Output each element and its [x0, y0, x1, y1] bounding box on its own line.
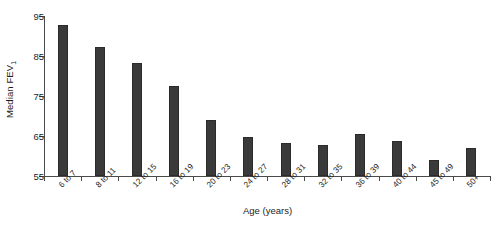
bar: [206, 120, 216, 176]
bar: [281, 143, 291, 176]
x-axis-tick: [453, 176, 454, 181]
x-axis-tick: [341, 176, 342, 181]
y-axis-tick-label: 65: [10, 131, 44, 142]
plot-area: [44, 16, 490, 176]
bar: [243, 137, 253, 176]
x-axis-tick: [44, 176, 45, 181]
bar: [392, 141, 402, 176]
y-axis-tick-label: 75: [10, 91, 44, 102]
x-axis-tick: [81, 176, 82, 181]
y-axis-ticks: 5565758595: [0, 0, 44, 234]
bar-chart: Median FEV1 5565758595 Age (years) 6 to …: [0, 0, 501, 234]
x-axis-tick: [267, 176, 268, 181]
bar: [466, 148, 476, 176]
x-axis-title: Age (years): [243, 205, 292, 216]
bar: [169, 86, 179, 176]
bar: [58, 25, 68, 176]
bar: [132, 63, 142, 176]
y-axis-tick-label: 95: [10, 11, 44, 22]
x-axis-tick: [156, 176, 157, 181]
x-axis-tick: [118, 176, 119, 181]
bar: [355, 134, 365, 176]
x-axis-tick: [304, 176, 305, 181]
x-axis-tick: [230, 176, 231, 181]
bar: [95, 47, 105, 176]
x-axis-tick: [416, 176, 417, 181]
y-axis-tick-label: 55: [10, 171, 44, 182]
y-axis-tick-label: 85: [10, 51, 44, 62]
x-axis-tick: [490, 176, 491, 181]
x-axis-tick: [193, 176, 194, 181]
bar: [318, 145, 328, 176]
x-axis-tick: [379, 176, 380, 181]
